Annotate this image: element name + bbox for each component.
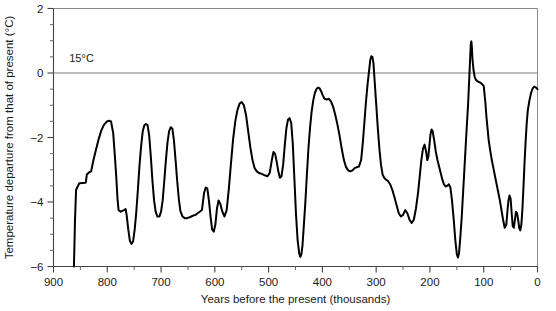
chart-annotations: 15°C bbox=[69, 52, 94, 64]
reference-temperature-label: 15°C bbox=[69, 52, 94, 64]
x-tick-label: 100 bbox=[474, 276, 493, 288]
x-tick-label: 300 bbox=[367, 276, 386, 288]
chart-root: 20−2−4−69008007006005004003002001000 Yea… bbox=[0, 0, 556, 311]
data-series bbox=[74, 41, 538, 266]
y-tick-label: −6 bbox=[30, 261, 43, 273]
y-tick-label: −2 bbox=[30, 132, 43, 144]
x-tick-label: 600 bbox=[205, 276, 224, 288]
x-tick-label: 900 bbox=[44, 276, 63, 288]
temperature-departure-chart: 20−2−4−69008007006005004003002001000 Yea… bbox=[0, 0, 556, 311]
x-tick-label: 500 bbox=[259, 276, 278, 288]
y-tick-label: −4 bbox=[30, 196, 44, 208]
x-tick-label: 200 bbox=[420, 276, 439, 288]
temperature-curve bbox=[74, 41, 538, 266]
x-tick-label: 700 bbox=[151, 276, 170, 288]
x-axis-title: Years before the present (thousands) bbox=[201, 293, 391, 305]
y-tick-label: 0 bbox=[37, 67, 43, 79]
x-tick-label: 800 bbox=[98, 276, 117, 288]
plot-frame bbox=[54, 9, 538, 267]
y-tick-label: 2 bbox=[37, 3, 43, 15]
x-tick-label: 400 bbox=[313, 276, 332, 288]
x-tick-label: 0 bbox=[534, 276, 540, 288]
axis-titles: Years before the present (thousands)Temp… bbox=[3, 16, 390, 305]
y-axis-title: Temperature departure from that of prese… bbox=[3, 16, 15, 260]
